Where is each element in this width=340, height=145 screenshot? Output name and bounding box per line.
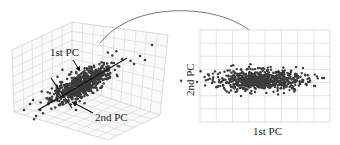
2d-data-point: [272, 72, 274, 74]
2d-data-point: [248, 66, 250, 68]
2d-data-point: [229, 69, 231, 71]
2d-data-point: [228, 91, 230, 93]
2d-data-point: [261, 79, 263, 81]
2d-outlier-point: [240, 95, 242, 97]
3d-data-point: [105, 74, 108, 77]
2d-data-point: [276, 80, 278, 82]
2d-data-point: [254, 72, 256, 74]
2d-data-point: [225, 90, 227, 92]
3d-data-point: [104, 78, 107, 81]
3d-data-point: [75, 78, 78, 81]
3d-data-point: [81, 75, 84, 78]
3d-data-point: [47, 98, 50, 101]
2d-data-point: [275, 83, 277, 85]
2d-data-point: [223, 87, 225, 89]
pca-figure: 1st PC 2nd PC 1st PC 2nd PC: [0, 0, 340, 145]
3d-data-point: [96, 89, 99, 92]
3d-data-point: [129, 59, 132, 62]
3d-data-point: [107, 77, 110, 80]
3d-data-point: [76, 81, 79, 84]
2d-data-point: [238, 78, 240, 80]
3d-data-point: [66, 78, 69, 81]
2d-data-point: [292, 77, 294, 79]
y-axis-label: 2nd PC: [184, 63, 196, 96]
3d-data-point: [74, 83, 77, 86]
3d-data-point: [110, 61, 113, 64]
2d-data-point: [232, 64, 234, 66]
2d-data-point: [263, 84, 265, 86]
2d-data-point: [205, 79, 207, 81]
2d-data-point: [301, 72, 303, 74]
2d-data-point: [267, 81, 269, 83]
3d-outlier-point: [139, 55, 142, 58]
2d-data-point: [280, 82, 282, 84]
2d-data-point: [249, 86, 251, 88]
3d-data-point: [97, 79, 100, 82]
2d-data-point: [226, 69, 228, 71]
2d-data-point: [290, 85, 292, 87]
2d-data-point: [241, 84, 243, 86]
2d-data-point: [255, 80, 257, 82]
3d-outlier-point: [23, 109, 26, 112]
3d-data-point: [116, 65, 119, 68]
2d-data-point: [288, 82, 290, 84]
2d-data-point: [297, 75, 299, 77]
2d-data-point: [235, 78, 237, 80]
2d-data-point: [249, 92, 251, 94]
3d-outlier-point: [29, 103, 32, 106]
3d-data-point: [92, 92, 95, 95]
2d-data-point: [212, 78, 214, 80]
2d-data-point: [247, 85, 249, 87]
2d-data-point: [249, 63, 251, 65]
2d-data-point: [254, 91, 256, 93]
3d-data-point: [56, 75, 59, 78]
2d-data-point: [233, 87, 235, 89]
3d-data-point: [79, 75, 82, 78]
2d-data-point: [237, 81, 239, 83]
3d-data-point: [114, 69, 117, 72]
2d-outlier-point: [295, 66, 297, 68]
3d-data-point: [93, 66, 96, 69]
3d-data-point: [101, 85, 104, 88]
3d-data-point: [84, 87, 87, 90]
3d-data-point: [91, 70, 94, 73]
2d-data-point: [214, 70, 216, 72]
2d-data-point: [296, 80, 298, 82]
3d-data-point: [76, 90, 79, 93]
2d-data-point: [304, 74, 306, 76]
2d-data-point: [259, 73, 261, 75]
2d-data-point: [280, 87, 282, 89]
2d-data-point: [260, 87, 262, 89]
2d-data-point: [230, 86, 232, 88]
3d-data-point: [80, 97, 83, 100]
2d-data-point: [305, 83, 307, 85]
3d-data-point: [60, 97, 63, 100]
2d-data-point: [250, 90, 252, 92]
2d-data-point: [261, 82, 263, 84]
2d-data-point: [231, 77, 233, 79]
2d-data-point: [226, 81, 228, 83]
2d-data-point: [277, 70, 279, 72]
2d-data-point: [299, 82, 301, 84]
2d-data-point: [272, 75, 274, 77]
2d-data-point: [316, 75, 318, 77]
3d-data-point: [67, 83, 70, 86]
3d-outlier-point: [151, 44, 154, 47]
3d-data-point: [85, 92, 88, 95]
pca-diagram-svg: 1st PC 2nd PC 1st PC 2nd PC: [0, 0, 340, 145]
3d-data-point: [71, 77, 74, 80]
2d-data-point: [266, 69, 268, 71]
2d-data-point: [234, 91, 236, 93]
3d-data-point: [46, 91, 49, 94]
2d-data-point: [196, 81, 198, 83]
2d-data-point: [294, 84, 296, 86]
3d-outlier-point: [144, 59, 147, 62]
3d-data-point: [107, 51, 110, 54]
3d-data-point: [65, 90, 68, 93]
2d-data-point: [258, 82, 260, 84]
2d-data-point: [277, 76, 279, 78]
3d-data-point: [42, 112, 45, 115]
2d-data-point: [279, 75, 281, 77]
3d-data-point: [109, 72, 112, 75]
2d-data-point: [270, 80, 272, 82]
